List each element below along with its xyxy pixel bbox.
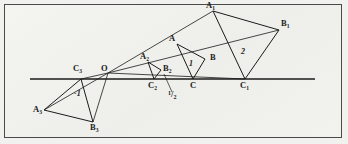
point-label-A1: A1 [206, 1, 215, 10]
triangle-image-2 [213, 11, 279, 79]
point-label-C1: C1 [240, 81, 249, 90]
point-label-A: A [169, 34, 175, 43]
point-label-C: C [190, 81, 196, 90]
point-label-C3: C3 [73, 64, 82, 73]
point-label-A2: A2 [140, 52, 149, 61]
triangle-image-2-outline [213, 11, 279, 79]
point-label-B1: B1 [281, 19, 289, 28]
ratio-label-minus-one: -1 [74, 90, 81, 98]
ray-O-C1 [108, 73, 245, 79]
point-label-B: B [210, 53, 216, 62]
ray-O-A1 [108, 11, 213, 73]
point-label-B2: B2 [163, 64, 171, 73]
ratio-label-one-half: 1/2 [168, 90, 176, 99]
triangle-image-half-outline [148, 62, 161, 79]
triangle-image-half [148, 62, 161, 79]
point-label-A3: A3 [33, 105, 42, 114]
point-label-O: O [101, 64, 108, 73]
ray-O-C3 [81, 73, 108, 79]
ratio-label-1: 1 [189, 60, 193, 68]
figure-root: O A B C A1 B1 C1 A2 B2 C2 A3 B3 C3 2 1 -… [0, 0, 348, 144]
triangle-image-minus-1 [44, 79, 93, 122]
point-label-C2: C2 [148, 81, 157, 90]
triangle-image-minus-1-outline [44, 79, 93, 122]
ratio-label-2: 2 [241, 48, 245, 56]
geometry-diagram-canvas [0, 0, 348, 144]
point-label-B3: B3 [90, 123, 98, 132]
